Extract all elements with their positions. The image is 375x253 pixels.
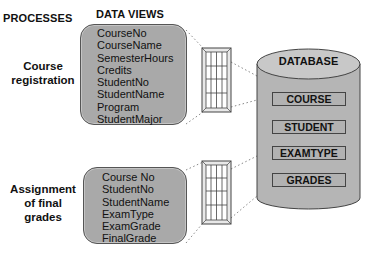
table-grid-icon (202, 161, 231, 224)
process-label-line: of final (6, 196, 80, 210)
table-grades: GRADES (272, 173, 346, 187)
field-item: SemesterHours (97, 52, 186, 64)
process-label-line: Assignment (6, 182, 80, 196)
table-examtype: EXAMTYPE (272, 146, 346, 160)
field-item: StudentMajor (97, 113, 186, 125)
field-item: CourseName (97, 39, 186, 51)
field-item: StudentName (102, 196, 186, 208)
field-item: CourseNo (97, 27, 186, 39)
process-label-line: registration (6, 73, 80, 87)
processes-header: PROCESSES (3, 12, 72, 24)
process-assignment-of-final-grades: Assignment of final grades (6, 182, 80, 224)
process-label-line: Course (6, 59, 80, 73)
data-view-course-registration: CourseNo CourseName SemesterHours Credit… (80, 24, 187, 125)
field-item: ExamType (102, 208, 186, 220)
field-item: StudentNo (102, 183, 186, 195)
table-grid-icon (202, 48, 231, 112)
field-item: FinalGrade (102, 232, 186, 244)
data-views-header: DATA VIEWS (96, 8, 164, 20)
table-course: COURSE (272, 92, 346, 106)
field-item: ExamGrade (102, 220, 186, 232)
process-label-line: grades (6, 210, 80, 224)
table-student: STUDENT (272, 120, 346, 134)
field-item: Course No (102, 171, 186, 183)
field-item: Credits (97, 64, 186, 76)
data-view-final-grades: Course No StudentNo StudentName ExamType… (83, 167, 187, 244)
database-title: DATABASE (257, 55, 360, 67)
process-course-registration: Course registration (6, 59, 80, 87)
field-item: Program (97, 101, 186, 113)
field-item: StudentName (97, 88, 186, 100)
field-item: StudentNo (97, 76, 186, 88)
